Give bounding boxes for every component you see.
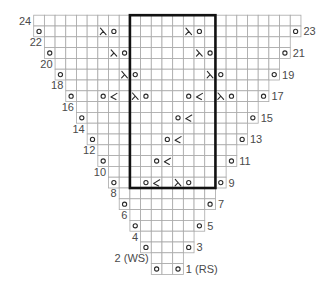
chart-cell [173,231,184,242]
chart-cell [205,26,216,37]
chart-cell [194,26,205,37]
chart-cell [141,102,152,113]
chart-cell [87,102,98,113]
chart-cell [87,69,98,80]
chart-cell [183,177,194,188]
chart-cell [183,91,194,102]
chart-cell [183,123,194,134]
chart-cell [162,177,173,188]
chart-cell [119,156,130,167]
chart-cell [109,69,120,80]
chart-cell [119,112,130,123]
chart-cell [130,48,141,59]
chart-cell [151,91,162,102]
chart-cell [290,15,301,26]
chart-cell [173,210,184,221]
chart-cell [151,15,162,26]
chart-cell [269,26,280,37]
chart-cell [119,15,130,26]
chart-cell [98,48,109,59]
chart-cell [66,37,77,48]
chart-cell [87,37,98,48]
chart-cell [183,156,194,167]
chart-cell [141,69,152,80]
knitting-chart: 24232221201918171615141312111098765432 (… [0,0,329,292]
chart-cell [237,80,248,91]
chart-cell [183,80,194,91]
chart-cell [173,253,184,264]
chart-cell [215,166,226,177]
chart-cell [76,69,87,80]
chart-cell [280,26,291,37]
chart-cell [34,26,45,37]
chart-cell [162,102,173,113]
row-label: 12 [83,144,95,156]
chart-cell [66,48,77,59]
chart-cell [66,80,77,91]
chart-cell [151,37,162,48]
chart-cell [87,48,98,59]
chart-cell [162,69,173,80]
chart-cell [162,253,173,264]
chart-cell [151,58,162,69]
chart-cell [141,91,152,102]
chart-cell [151,253,162,264]
chart-cell [151,231,162,242]
chart-cell [173,242,184,253]
chart-cell [151,199,162,210]
chart-cell [226,156,237,167]
chart-cell [130,123,141,134]
chart-cell [119,48,130,59]
row-label: 18 [51,79,63,91]
chart-cell [215,156,226,167]
chart-cell [66,69,77,80]
chart-cell [141,231,152,242]
chart-cell [194,69,205,80]
chart-cell [205,37,216,48]
chart-cell [215,48,226,59]
chart-cell [258,80,269,91]
chart-cell [183,37,194,48]
chart-cell [173,134,184,145]
chart-cell [205,80,216,91]
chart-cell [109,134,120,145]
row-label: 15 [261,112,273,124]
chart-cell [151,48,162,59]
chart-cell [205,91,216,102]
chart-cell [76,91,87,102]
chart-cell [141,177,152,188]
chart-cell [205,112,216,123]
row-label: 4 [132,231,138,243]
chart-cell [226,37,237,48]
row-label: 5 [207,220,213,232]
row-label: 16 [62,101,74,113]
chart-cell [44,26,55,37]
row-label: 20 [40,58,52,70]
chart-cell [141,199,152,210]
chart-cell [269,69,280,80]
chart-cell [162,80,173,91]
chart-cell [141,48,152,59]
chart-cell [173,69,184,80]
chart-cell [173,123,184,134]
chart-cell [194,15,205,26]
chart-cell [183,242,194,253]
chart-cell [226,134,237,145]
chart-cell [141,188,152,199]
chart-cell [194,123,205,134]
chart-cell [215,58,226,69]
chart-cell [76,112,87,123]
chart-cell [66,15,77,26]
chart-cell [130,220,141,231]
chart-cell [248,15,259,26]
chart-cell [162,242,173,253]
chart-cell [226,112,237,123]
chart-cell [194,156,205,167]
chart-cell [173,156,184,167]
chart-cell [194,58,205,69]
chart-cell [248,37,259,48]
chart-cell [162,37,173,48]
row-label: 7 [218,198,224,210]
chart-cell [205,58,216,69]
chart-cell [151,156,162,167]
